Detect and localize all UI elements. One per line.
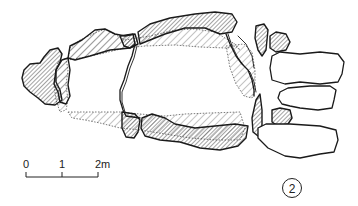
scale-label-2m: 2m [95, 159, 110, 170]
figure-number-badge: 2 [282, 178, 302, 198]
kerb-stones [258, 52, 344, 158]
scale-label-1: 1 [59, 159, 65, 170]
kerb-stone-2 [278, 86, 336, 110]
stone-small-lower-right [272, 108, 292, 126]
stone-bottom-small-1 [122, 112, 140, 138]
stone-right-upright [255, 24, 268, 56]
kerb-stone-1 [270, 52, 344, 84]
kerb-stone-3 [258, 124, 338, 158]
scale-bar [26, 172, 98, 177]
stone-small-top-right [270, 32, 290, 52]
tomb-plan-drawing [0, 0, 358, 206]
scale-label-0: 0 [23, 159, 29, 170]
